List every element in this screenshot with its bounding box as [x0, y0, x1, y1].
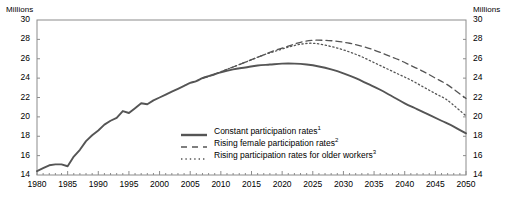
legend-footnote-marker: 1 [317, 125, 320, 131]
y-tick-label-right: 16 [473, 150, 495, 160]
legend-footnote-marker: 3 [373, 149, 376, 155]
y-tick-label-left: 28 [8, 33, 30, 43]
legend-swatch-solid [181, 126, 207, 136]
y-tick-label-left: 16 [8, 150, 30, 160]
legend-footnote-marker: 2 [335, 137, 338, 143]
legend-label: Constant participation rates1 [214, 126, 321, 136]
legend-item-rising-female: Rising female participation rates2 [181, 137, 431, 149]
legend-label: Rising female participation rates2 [214, 138, 338, 148]
x-tick-label: 2050 [446, 179, 486, 189]
legend-label: Rising participation rates for older wor… [214, 150, 376, 160]
y-tick-label-left: 24 [8, 72, 30, 82]
legend-swatch-dotted [181, 150, 207, 160]
y-tick-label-right: 24 [473, 72, 495, 82]
y-tick-label-left: 20 [8, 111, 30, 121]
y-tick-label-right: 14 [473, 169, 495, 179]
y-tick-label-right: 18 [473, 130, 495, 140]
y-tick-label-right: 26 [473, 53, 495, 63]
y-tick-label-right: 20 [473, 111, 495, 121]
y-tick-label-left: 18 [8, 130, 30, 140]
legend-item-constant: Constant participation rates1 [181, 125, 431, 137]
y-tick-label-left: 22 [8, 92, 30, 102]
series-line-2 [202, 43, 466, 116]
legend-swatch-dashed [181, 138, 207, 148]
y-tick-label-right: 22 [473, 92, 495, 102]
y-tick-label-left: 14 [8, 169, 30, 179]
chart-legend: Constant participation rates1Rising fema… [181, 125, 431, 161]
y-tick-label-right: 28 [473, 33, 495, 43]
y-tick-label-left: 26 [8, 53, 30, 63]
chart-container: Millions Millions 141618202224262830 141… [0, 0, 508, 201]
y-tick-label-right: 30 [473, 14, 495, 24]
y-tick-label-left: 30 [8, 14, 30, 24]
chart-plot-area [0, 0, 508, 201]
legend-item-rising-older: Rising participation rates for older wor… [181, 149, 431, 161]
